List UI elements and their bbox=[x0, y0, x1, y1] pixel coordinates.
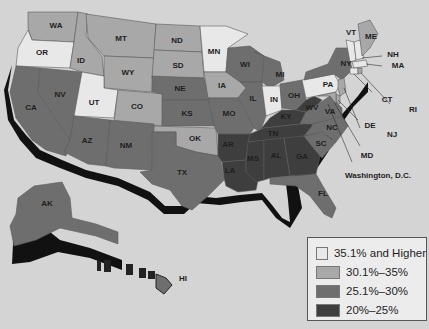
state-ak[interactable] bbox=[10, 182, 118, 246]
label-ca: CA bbox=[25, 103, 37, 112]
label-nc: NC bbox=[326, 123, 338, 132]
label-il: IL bbox=[249, 94, 256, 103]
state-nj[interactable] bbox=[338, 78, 346, 96]
label-fl: FL bbox=[318, 189, 328, 198]
label-in: IN bbox=[270, 95, 278, 104]
state-hi[interactable] bbox=[97, 260, 172, 294]
label-nj: NJ bbox=[387, 130, 397, 139]
label-nm: NM bbox=[120, 141, 133, 150]
label-nh: NH bbox=[387, 50, 399, 59]
legend-item-35-plus: 35.1% and Higher bbox=[316, 244, 426, 262]
label-id: ID bbox=[77, 56, 85, 65]
label-ct: CT bbox=[382, 95, 393, 104]
legend-swatch-lightest bbox=[316, 247, 328, 260]
label-la: LA bbox=[225, 166, 236, 175]
label-ny: NY bbox=[340, 59, 352, 68]
label-me: ME bbox=[365, 32, 378, 41]
label-ky: KY bbox=[280, 112, 292, 121]
legend-item-20-25: 20%–25% bbox=[316, 301, 426, 319]
label-md: MD bbox=[361, 151, 374, 160]
legend-swatch-dark bbox=[316, 304, 340, 317]
label-tn: TN bbox=[268, 129, 279, 138]
label-ma: MA bbox=[392, 61, 405, 70]
label-ms: MS bbox=[247, 154, 260, 163]
label-tx: TX bbox=[177, 168, 188, 177]
label-sd: SD bbox=[172, 61, 183, 70]
legend-swatch-light bbox=[316, 266, 340, 279]
label-ga: GA bbox=[296, 152, 308, 161]
label-dc: Washington, D.C. bbox=[345, 171, 411, 180]
label-wi: WI bbox=[240, 60, 250, 69]
label-az: AZ bbox=[82, 136, 93, 145]
label-sc: SC bbox=[315, 139, 326, 148]
label-pa: PA bbox=[323, 80, 334, 89]
legend-item-30-35: 30.1%–35% bbox=[316, 263, 426, 281]
legend-swatch-medium bbox=[316, 285, 340, 298]
label-nd: ND bbox=[171, 36, 183, 45]
label-mo: MO bbox=[223, 109, 236, 118]
label-co: CO bbox=[131, 102, 143, 111]
state-ct[interactable] bbox=[350, 68, 358, 74]
label-mi: MI bbox=[276, 70, 285, 79]
legend-label: 30.1%–35% bbox=[346, 266, 408, 278]
state-ma[interactable] bbox=[352, 60, 368, 68]
label-nv: NV bbox=[54, 90, 66, 99]
label-ok: OK bbox=[189, 134, 201, 143]
label-mn: MN bbox=[208, 47, 221, 56]
label-mt: MT bbox=[115, 34, 127, 43]
label-wv: WV bbox=[306, 103, 320, 112]
state-de[interactable] bbox=[336, 94, 340, 104]
label-ks: KS bbox=[181, 109, 193, 118]
label-ak: AK bbox=[41, 199, 53, 208]
label-vt: VT bbox=[346, 28, 356, 37]
label-wy: WY bbox=[122, 68, 136, 77]
label-va: VA bbox=[325, 107, 336, 116]
label-or: OR bbox=[36, 48, 48, 57]
label-de: DE bbox=[364, 121, 376, 130]
legend-label: 25.1%–30% bbox=[346, 285, 408, 297]
label-ar: AR bbox=[222, 140, 234, 149]
label-wa: WA bbox=[50, 21, 63, 30]
label-ri: RI bbox=[409, 105, 417, 114]
legend-item-25-30: 25.1%–30% bbox=[316, 282, 426, 300]
label-al: AL bbox=[271, 151, 282, 160]
legend-label: 35.1% and Higher bbox=[334, 247, 426, 259]
legend: 35.1% and Higher 30.1%–35% 25.1%–30% 20%… bbox=[307, 237, 427, 321]
label-hi: HI bbox=[179, 274, 187, 283]
label-oh: OH bbox=[288, 91, 300, 100]
label-ut: UT bbox=[89, 98, 100, 107]
label-ia: IA bbox=[218, 81, 226, 90]
label-ne: NE bbox=[174, 84, 186, 93]
legend-label: 20%–25% bbox=[346, 304, 398, 316]
